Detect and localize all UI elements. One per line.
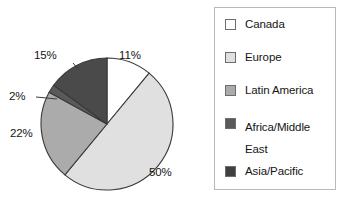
legend-item-europe[interactable]: Europe [215,50,335,83]
legend-item-list: Canada Europe Latin America Africa/Middl… [215,8,335,189]
legend-label-europe: Europe [245,50,281,65]
legend-item-canada[interactable]: Canada [215,17,335,50]
pie-label-asia-pacific: 15% [34,49,57,61]
legend-swatch-canada-icon [225,19,236,30]
pie-chart-plot-area: 11% 50% 22% 2% 15% [0,0,210,206]
pie-chart-figure: 11% 50% 22% 2% 15% Canada Europe Latin A… [0,0,346,206]
pie-label-canada: 11% [119,49,141,61]
legend-swatch-africa-middle-east-icon [225,118,236,129]
pie-label-europe: 50% [149,166,172,178]
legend-label-canada: Canada [245,17,285,32]
legend-item-latin-america[interactable]: Latin America [215,83,335,116]
legend-label-africa-middle-east: Africa/Middle East [245,116,333,160]
legend-item-asia-pacific[interactable]: Asia/Pacific [215,164,335,197]
pie-label-latin-america: 22% [10,127,33,139]
legend-swatch-latin-america-icon [225,85,236,96]
legend-label-asia-pacific: Asia/Pacific [245,164,303,179]
pie-label-africa-middle-east: 2% [9,90,25,102]
legend-swatch-europe-icon [225,52,236,63]
legend-label-latin-america: Latin America [245,83,313,98]
pie-chart-svg [0,0,210,206]
legend: Canada Europe Latin America Africa/Middl… [214,7,336,190]
legend-swatch-asia-pacific-icon [225,166,236,177]
legend-item-africa-middle-east[interactable]: Africa/Middle East [215,116,335,164]
